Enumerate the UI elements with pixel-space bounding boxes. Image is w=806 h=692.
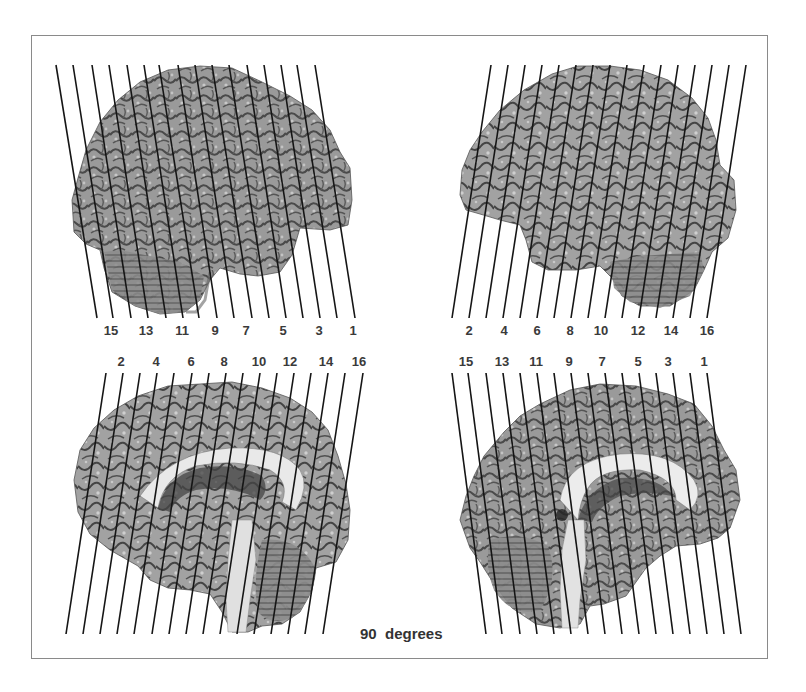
brain-slice-figure — [0, 0, 806, 692]
panel-top-left-brain — [72, 66, 352, 314]
panel-top-right-brain — [460, 66, 736, 308]
